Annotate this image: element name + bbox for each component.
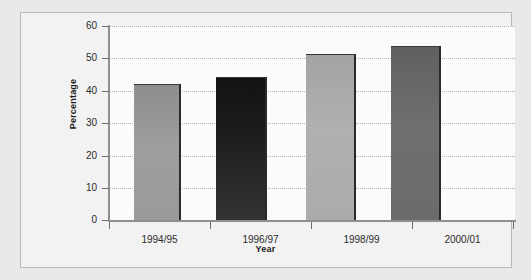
y-tick-label-20: 20 <box>71 151 97 161</box>
y-tick-label-20-wrap: 20 <box>69 151 97 161</box>
x-tick-2 <box>311 222 312 229</box>
y-tick-label-0-wrap: 0 <box>69 215 97 225</box>
x-axis-title: Year <box>0 244 531 254</box>
bar-2000-01 <box>391 46 441 220</box>
x-tick-1 <box>210 222 211 229</box>
x-axis-line <box>108 220 516 222</box>
x-tick-3 <box>412 222 413 229</box>
y-tick-label-10-wrap: 10 <box>69 183 97 193</box>
bar-1998-99 <box>306 54 356 220</box>
bar-1996-97 <box>216 77 267 220</box>
bars-layer <box>109 25 515 220</box>
chart-page: 60 50 40 30 20 10 0 <box>0 0 531 280</box>
y-tick-label-0: 0 <box>71 215 97 225</box>
y-tick-label-10: 10 <box>71 183 97 193</box>
y-tick-label-50-wrap: 50 <box>69 53 97 63</box>
x-tick-0 <box>109 222 110 229</box>
y-tick-label-60: 60 <box>71 21 97 31</box>
y-tick-label-60-wrap: 60 <box>69 21 97 31</box>
chart-frame: 60 50 40 30 20 10 0 <box>20 12 512 268</box>
y-axis-title: Percentage <box>68 79 78 130</box>
y-tick-label-50: 50 <box>71 53 97 63</box>
bar-1994-95 <box>134 84 181 221</box>
x-tick-4 <box>513 222 514 229</box>
